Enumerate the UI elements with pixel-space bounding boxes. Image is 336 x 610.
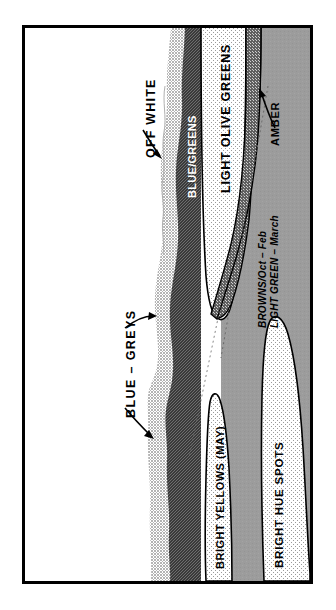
diagram-canvas: OFF WHITE BLUE/GREENS LIGHT OLIVE GREENS… — [0, 0, 336, 610]
zone-plot — [25, 28, 310, 581]
diagram-frame: OFF WHITE BLUE/GREENS LIGHT OLIVE GREENS… — [22, 25, 313, 584]
